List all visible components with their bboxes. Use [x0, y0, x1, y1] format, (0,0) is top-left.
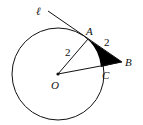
- label-line-l: ℓ: [36, 5, 41, 17]
- segment-ob: [58, 62, 122, 74]
- label-a: A: [85, 25, 93, 37]
- tangent-line-l: [48, 11, 122, 62]
- geometry-diagram: ℓ A B C O 2 2: [0, 0, 143, 125]
- label-o: O: [51, 79, 59, 91]
- label-ab-length: 2: [104, 36, 110, 48]
- label-b: B: [125, 56, 132, 68]
- label-c: C: [102, 69, 110, 81]
- center-point-o: [56, 72, 59, 75]
- label-oa-length: 2: [65, 46, 71, 58]
